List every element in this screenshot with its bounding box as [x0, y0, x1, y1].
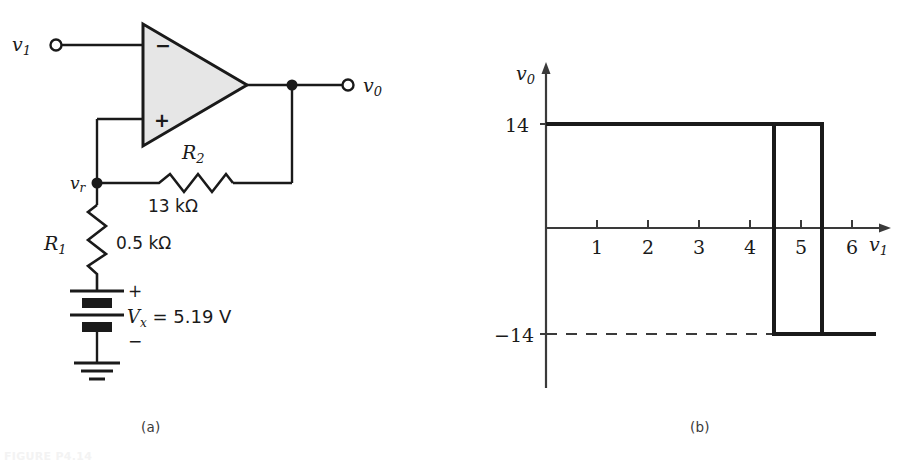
resistor-r2-value: 13 kΩ [148, 196, 198, 216]
opamp-inverting-symbol: − [155, 34, 171, 56]
x-axis-label: v1 [869, 233, 888, 258]
resistor-r1-value: 0.5 kΩ [116, 233, 171, 253]
battery-short-plate-2 [82, 322, 112, 332]
source-minus-symbol: − [128, 331, 142, 351]
x-tick-label-6: 6 [846, 236, 858, 258]
resistor-r2-name: R2 [181, 141, 205, 166]
subcaption-a: (a) [141, 419, 160, 435]
battery-short-plate-1 [82, 298, 112, 308]
x-tick-label-3: 3 [693, 236, 705, 258]
transfer-characteristic-chart: v0 v1 14 −14 1 2 3 4 5 6 [494, 62, 891, 388]
y-tick-label-14: 14 [505, 114, 529, 136]
output-terminal-label: v0 [363, 74, 382, 99]
resistor-r1-name: R1 [43, 232, 67, 257]
opamp-noninverting-symbol: + [154, 109, 170, 131]
x-tick-label-4: 4 [744, 236, 756, 258]
output-terminal-node [343, 80, 354, 91]
x-tick-label-5: 5 [795, 236, 807, 258]
y-tick-label-minus-14: −14 [494, 324, 534, 346]
figure-svg: − + [0, 0, 909, 462]
source-plus-symbol: + [128, 281, 142, 301]
input-terminal-node [51, 40, 62, 51]
source-label: Vx = 5.19 V [127, 306, 232, 330]
x-axis-arrowhead [879, 224, 891, 233]
resistor-r1-symbol [88, 205, 106, 291]
x-axis-ticks [597, 220, 852, 228]
x-tick-label-1: 1 [591, 236, 603, 258]
y-axis-arrowhead [542, 62, 551, 74]
circuit-diagram: − + [12, 24, 382, 379]
subcaption-b: (b) [690, 419, 710, 435]
figure-container: − + [0, 0, 909, 462]
y-axis-label: v0 [516, 62, 535, 87]
x-tick-label-2: 2 [642, 236, 654, 258]
resistor-r2-symbol [152, 174, 233, 192]
figure-caption: FIGURE P4.14 [4, 450, 92, 462]
vr-node-label: vr [70, 173, 87, 195]
input-terminal-label: v1 [12, 33, 31, 58]
